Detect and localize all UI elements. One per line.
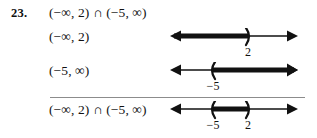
row-2-interval-label: (−5, ∞)	[49, 63, 89, 79]
right-arrowhead	[287, 31, 298, 42]
number-line-row-2: −5	[168, 62, 300, 96]
left-arrowhead	[170, 65, 181, 76]
problem-number: 23.	[11, 6, 27, 21]
row-1-interval-label: (−∞, 2)	[49, 29, 89, 45]
tick-label-neg5: −5	[207, 118, 220, 133]
left-arrowhead	[170, 104, 181, 115]
number-line-graphic	[168, 101, 300, 121]
number-line-graphic	[168, 62, 300, 82]
tick-label-2: 2	[245, 45, 251, 60]
number-line-row-1: 2	[168, 28, 300, 62]
tick-label-neg5: −5	[207, 79, 220, 94]
exercise-figure: 23. (−∞, 2) ∩ (−5, ∞) (−∞, 2) (−5, ∞) (−…	[0, 0, 317, 138]
number-line-graphic	[168, 28, 300, 48]
right-arrowhead	[287, 104, 298, 115]
horizontal-rule	[50, 97, 305, 98]
main-expression: (−∞, 2) ∩ (−5, ∞)	[49, 5, 147, 21]
number-line-row-3: −5 2	[168, 101, 300, 135]
tick-label-2: 2	[245, 118, 251, 133]
row-3-intersection-label: (−∞, 2) ∩ (−5, ∞)	[49, 102, 147, 118]
